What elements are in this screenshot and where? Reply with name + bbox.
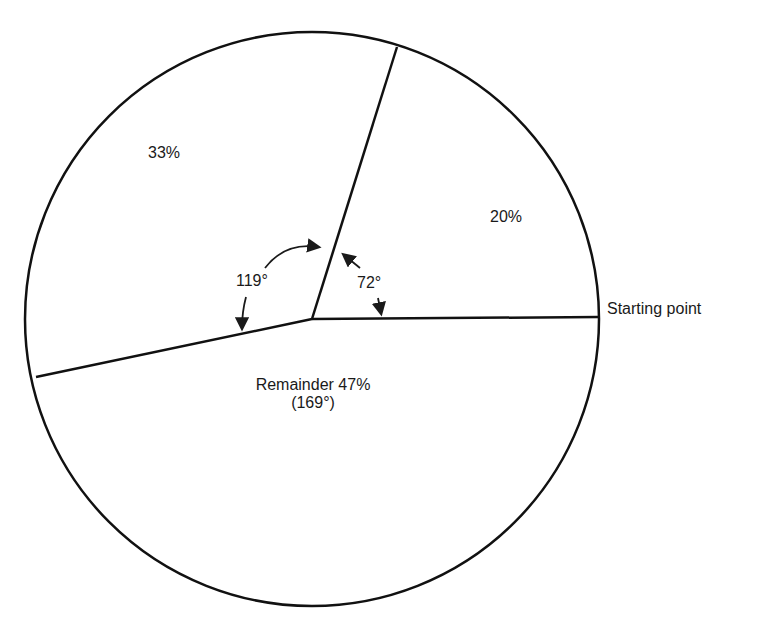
arrow-119-up bbox=[265, 246, 318, 268]
arrow-119-down bbox=[242, 297, 246, 328]
radius-191 bbox=[36, 319, 312, 377]
arrow-72-up bbox=[344, 255, 360, 268]
arrow-72-down bbox=[378, 298, 381, 313]
start-label: Starting point bbox=[607, 300, 701, 318]
remainder-label: Remainder 47% (169°) bbox=[238, 376, 388, 412]
radius-start bbox=[312, 317, 599, 319]
remainder-line1: Remainder 47% bbox=[238, 376, 388, 394]
remainder-line2: (169°) bbox=[238, 394, 388, 412]
slice-label-33: 33% bbox=[148, 144, 180, 162]
slice-label-20: 20% bbox=[490, 208, 522, 226]
angle-label-119: 119° bbox=[236, 272, 268, 290]
angle-label-72: 72° bbox=[357, 274, 381, 292]
radius-72 bbox=[312, 47, 397, 319]
